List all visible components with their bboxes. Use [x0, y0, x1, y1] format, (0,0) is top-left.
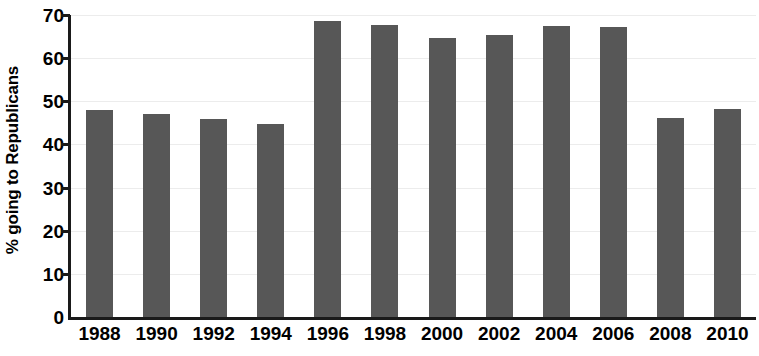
gridline [71, 58, 756, 59]
y-axis-tick-mark [61, 143, 70, 146]
bar [257, 124, 284, 317]
x-axis-tick-labels: 1988199019921994199619982000200220042006… [71, 324, 756, 352]
bar [429, 38, 456, 317]
x-axis-tick-label: 2010 [698, 324, 756, 345]
bar [143, 114, 170, 317]
caption-artifact [6, 351, 216, 356]
x-axis-tick-label: 2000 [413, 324, 471, 345]
y-axis-tick-mark [61, 14, 70, 17]
y-axis-tick-label: 40 [24, 135, 64, 154]
bar [600, 27, 627, 317]
gridline [71, 144, 756, 145]
y-axis-tick-label: 60 [24, 49, 64, 68]
bar [86, 110, 113, 317]
x-axis-tick-label: 1992 [185, 324, 243, 345]
y-axis-tick-label: 70 [24, 6, 64, 25]
plot-area [71, 15, 756, 317]
y-axis-tick-label: 20 [24, 221, 64, 240]
gridline [71, 15, 756, 16]
y-axis-tick-labels: 010203040506070 [20, 0, 64, 356]
y-axis-tick-label: 10 [24, 264, 64, 283]
y-axis-tick-mark [61, 230, 70, 233]
x-axis-tick-label: 1990 [128, 324, 186, 345]
gridline [71, 274, 756, 275]
gridline [71, 231, 756, 232]
y-axis-tick-mark [61, 57, 70, 60]
y-axis-tick-label: 50 [24, 92, 64, 111]
x-axis-tick-label: 2006 [584, 324, 642, 345]
x-axis-tick-label: 2004 [527, 324, 585, 345]
y-axis-tick-label: 0 [24, 308, 64, 327]
y-axis-tick-mark [61, 187, 70, 190]
bar-chart: % going to Republicans 010203040506070 1… [0, 0, 759, 356]
gridline [71, 188, 756, 189]
x-axis-tick-label: 1996 [299, 324, 357, 345]
x-axis-tick-label: 1998 [356, 324, 414, 345]
bar [314, 21, 341, 317]
bar [371, 25, 398, 317]
y-axis-tick-label: 30 [24, 178, 64, 197]
x-axis-tick-label: 2008 [641, 324, 699, 345]
bar [543, 26, 570, 317]
x-axis-tick-label: 1994 [242, 324, 300, 345]
bar [657, 118, 684, 317]
bar [200, 119, 227, 317]
x-axis-tick-label: 2002 [470, 324, 528, 345]
y-axis-tick-mark [61, 100, 70, 103]
bar [486, 35, 513, 317]
gridline [71, 101, 756, 102]
x-axis-line [68, 317, 756, 320]
y-axis-tick-mark [61, 273, 70, 276]
x-axis-tick-label: 1988 [71, 324, 129, 345]
bar [714, 109, 741, 317]
